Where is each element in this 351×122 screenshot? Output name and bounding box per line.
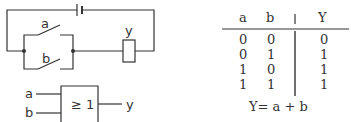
svg-text:1: 1 [320,47,328,62]
header-b: b [266,10,274,25]
header-a: a [239,10,247,25]
or-logic-diagram: a b y a b ≥ 1 y a b Y 0 0 0 0 1 1 1 0 1 … [0,0,351,122]
gate-input-a: a [25,86,33,101]
svg-text:1: 1 [320,62,328,77]
svg-text:0: 0 [239,47,247,62]
svg-text:0: 0 [267,32,275,47]
gate-input-b: b [25,105,33,120]
gate-symbol: ≥ 1 [71,97,94,112]
relay-label: y [125,23,133,38]
svg-text:1: 1 [320,77,328,92]
svg-text:0: 0 [320,32,328,47]
switch-a-label: a [41,16,49,31]
header-y: Y [317,10,327,25]
truth-table: a b Y 0 0 0 0 1 1 1 0 1 1 1 1 Y= a + b [222,10,349,114]
svg-text:1: 1 [239,62,247,77]
switch-b-label: b [42,51,50,66]
equation: Y= a + b [248,99,308,114]
svg-text:1: 1 [267,77,275,92]
svg-text:1: 1 [239,77,247,92]
svg-text:0: 0 [267,62,275,77]
svg-text:0: 0 [239,32,247,47]
relay-coil [123,40,135,62]
svg-text:1: 1 [267,47,275,62]
gate-output: y [126,97,134,112]
